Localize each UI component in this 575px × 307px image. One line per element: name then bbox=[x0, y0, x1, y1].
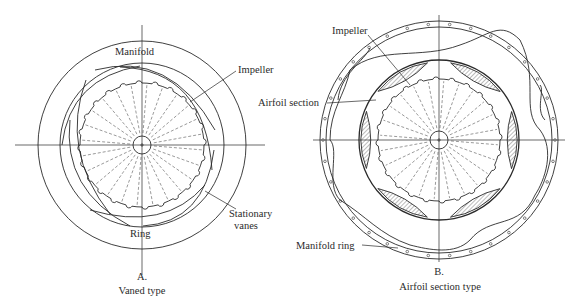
figure-b-airfoil-section-type bbox=[313, 15, 565, 262]
bolt-hole bbox=[330, 97, 333, 100]
impeller-blade-dashed bbox=[144, 157, 153, 204]
impeller-blade-dashed bbox=[151, 106, 188, 137]
leader-impeller-a bbox=[190, 71, 236, 102]
label-impeller-b: Impeller bbox=[332, 25, 368, 37]
label-airfoil-section: Airfoil section bbox=[258, 97, 319, 109]
impeller-blade-dashed bbox=[122, 156, 138, 201]
label-stationary-vanes-line1: Stationary bbox=[229, 208, 272, 220]
airfoil-section-vane bbox=[450, 189, 500, 218]
bolt-hole bbox=[368, 231, 371, 234]
impeller-blade-dashed bbox=[449, 147, 488, 174]
bolt-hole bbox=[386, 243, 389, 246]
airfoil-section-vane bbox=[378, 188, 427, 217]
bolt-hole bbox=[469, 27, 472, 30]
impeller-blade-dashed bbox=[153, 149, 198, 165]
bolt-hole bbox=[330, 181, 333, 184]
bolt-hole bbox=[324, 160, 327, 163]
bolt-hole bbox=[427, 23, 430, 26]
label-manifold: Manifold bbox=[115, 46, 154, 58]
impeller-blade-dashed bbox=[96, 153, 133, 184]
label-ring: Ring bbox=[130, 228, 150, 240]
bolt-hole bbox=[469, 250, 472, 253]
bolt-hole bbox=[352, 217, 355, 220]
bolt-hole bbox=[324, 117, 327, 120]
impeller-blade-dashed bbox=[108, 155, 135, 194]
bolt-hole bbox=[406, 27, 409, 30]
impeller-blade-dashed bbox=[443, 84, 459, 128]
caption-title-b: Airfoil section type bbox=[385, 280, 495, 293]
impeller-blade-dashed bbox=[147, 156, 168, 199]
bolt-hole bbox=[508, 46, 511, 49]
impeller-blade-dashed bbox=[447, 149, 477, 185]
label-impeller-a: Impeller bbox=[238, 64, 274, 76]
impeller-blade-dashed bbox=[116, 91, 137, 134]
impeller-blade-dashed bbox=[390, 106, 429, 133]
impeller-blade-dashed bbox=[131, 86, 140, 133]
impeller-blade-dashed bbox=[381, 142, 427, 150]
bolt-hole bbox=[536, 78, 539, 81]
impeller-blade-dashed bbox=[154, 134, 201, 143]
leader-stationary-vanes bbox=[205, 191, 236, 209]
impeller-blade-dashed bbox=[434, 152, 438, 199]
bolt-hole bbox=[552, 160, 555, 163]
airfoil-section-vane bbox=[378, 63, 428, 91]
label-manifold-ring: Manifold ring bbox=[296, 240, 355, 252]
caption-title-a: Vaned type bbox=[100, 284, 184, 297]
impeller-blade-dashed bbox=[152, 152, 191, 179]
impeller-blade-dashed bbox=[405, 150, 432, 189]
impeller-blade-dashed bbox=[428, 82, 436, 128]
impeller-blade-dashed bbox=[440, 81, 444, 128]
bolt-hole bbox=[489, 35, 492, 38]
impeller-blade-dashed bbox=[153, 119, 196, 140]
impeller-blade-dashed bbox=[143, 85, 147, 133]
impeller-blade-dashed bbox=[137, 157, 141, 205]
airfoil-section-vane bbox=[451, 63, 500, 92]
bolt-hole bbox=[448, 23, 451, 26]
impeller-blade-dashed bbox=[103, 99, 134, 136]
leader-manifold-ring bbox=[362, 245, 398, 248]
impeller-blade-dashed bbox=[401, 95, 431, 131]
impeller-blade-dashed bbox=[150, 154, 181, 191]
bolt-hole bbox=[546, 181, 549, 184]
impeller-blade-dashed bbox=[146, 88, 162, 133]
bolt-hole bbox=[508, 231, 511, 234]
bolt-hole bbox=[523, 61, 526, 64]
bolt-hole bbox=[427, 254, 430, 257]
impeller-blade-dashed bbox=[386, 145, 428, 165]
impeller-blade-dashed bbox=[82, 140, 130, 144]
impeller-blade-dashed bbox=[446, 91, 473, 130]
impeller-blade-dashed bbox=[441, 152, 449, 198]
impeller-blade-dashed bbox=[88, 150, 131, 171]
label-stationary-vanes-line2: vanes bbox=[234, 220, 258, 232]
impeller-blade-dashed bbox=[93, 111, 132, 138]
bolt-hole bbox=[386, 35, 389, 38]
impeller-blade-dashed bbox=[154, 146, 202, 150]
bolt-hole bbox=[552, 117, 555, 120]
impeller-blade-dashed bbox=[83, 147, 130, 156]
impeller-blade-dashed bbox=[450, 144, 494, 160]
bolt-hole bbox=[546, 97, 549, 100]
impeller-blade-dashed bbox=[444, 151, 464, 193]
impeller-blade-dashed bbox=[414, 87, 434, 129]
impeller-blade-dashed bbox=[419, 151, 435, 195]
bolt-hole bbox=[448, 254, 451, 257]
impeller-blade-dashed bbox=[149, 96, 176, 135]
diagram-canvas bbox=[0, 0, 575, 307]
impeller-blade-dashed bbox=[85, 125, 130, 141]
bolt-hole bbox=[523, 217, 526, 220]
impeller-blade-dashed bbox=[380, 135, 427, 139]
bolt-hole bbox=[406, 250, 409, 253]
impeller-blade-dashed bbox=[448, 102, 484, 132]
impeller-blade-dashed bbox=[451, 141, 498, 145]
impeller-blade-dashed bbox=[383, 120, 427, 136]
caption-letter-a: A. bbox=[132, 270, 152, 283]
bolt-hole bbox=[352, 61, 355, 64]
stationary-vanes bbox=[62, 66, 215, 226]
impeller-blade-dashed bbox=[451, 129, 497, 137]
bolt-hole bbox=[489, 243, 492, 246]
caption-letter-b: B. bbox=[429, 265, 449, 278]
bolt-hole bbox=[339, 78, 342, 81]
bolt-hole bbox=[536, 200, 539, 203]
impeller-blade-dashed bbox=[450, 115, 492, 135]
impeller-blade-dashed bbox=[394, 148, 430, 178]
